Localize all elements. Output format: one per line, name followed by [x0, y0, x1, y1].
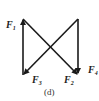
- label-f3: F3: [31, 74, 42, 86]
- label-f1: F1: [5, 19, 16, 31]
- force-diagram: F1 F3 F2 F4 (d): [0, 0, 99, 101]
- label-f2: F2: [63, 74, 74, 86]
- figure-caption: (d): [44, 87, 55, 97]
- label-f4: F4: [87, 64, 98, 76]
